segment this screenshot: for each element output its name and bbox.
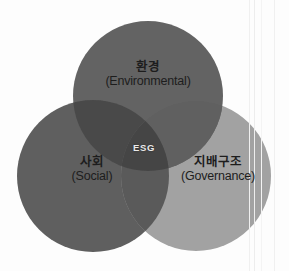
venn-circles-graphic	[0, 0, 289, 271]
venn-diagram-canvas: 환경 (Environmental) 사회 (Social) 지배구조 (Gov…	[0, 0, 289, 271]
